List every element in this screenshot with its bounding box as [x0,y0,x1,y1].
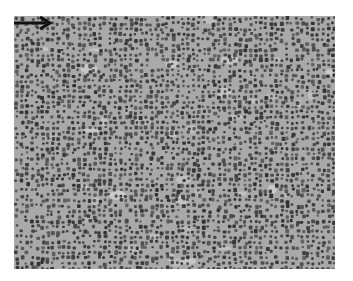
histology-micrograph [14,16,335,269]
cell-field [14,16,335,269]
arrow-right-icon [14,16,54,30]
